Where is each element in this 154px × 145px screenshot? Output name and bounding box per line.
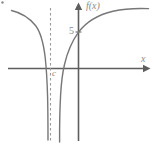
function-graph-figure: f(x) x 5 c [0, 0, 154, 145]
y-axis-arrowhead [75, 3, 82, 11]
scan-speck-artifact [1, 1, 3, 3]
asymptote-label-c: c [52, 69, 56, 78]
x-axis-arrowhead [143, 65, 151, 72]
y-intercept-label: 5 [69, 26, 74, 36]
curve-left-branch [12, 11, 49, 141]
y-axis-label: f(x) [86, 1, 100, 11]
graph-canvas [0, 0, 154, 145]
x-axis-label: x [141, 54, 145, 64]
